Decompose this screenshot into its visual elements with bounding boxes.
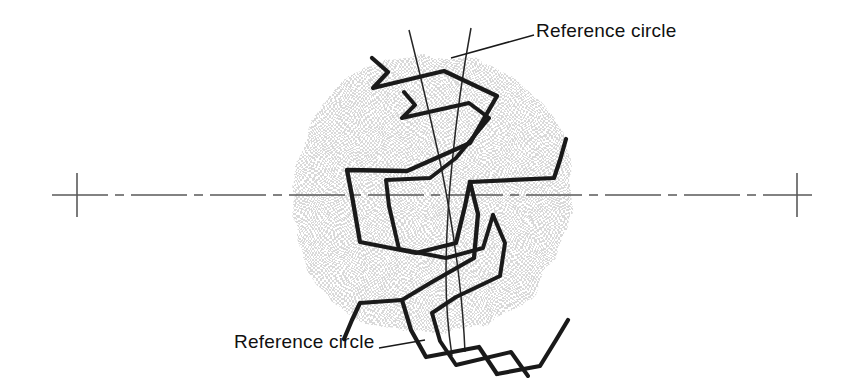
figure-canvas xyxy=(0,0,858,379)
reference-circle-label-top: Reference circle xyxy=(536,20,676,42)
gear-body-shading xyxy=(293,56,572,332)
gear-tooth-figure: Reference circle Reference circle xyxy=(0,0,858,379)
reference-circle-label-bottom: Reference circle xyxy=(234,331,374,353)
top-label-leader-line xyxy=(451,35,534,58)
